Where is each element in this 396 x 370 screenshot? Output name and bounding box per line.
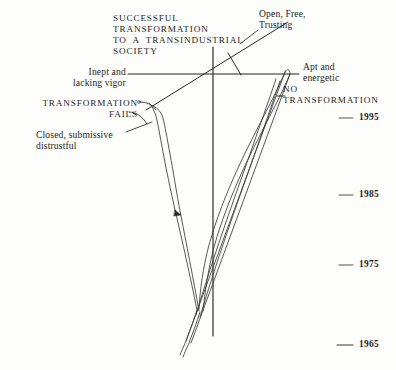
year-label-1975: 1975 (359, 259, 379, 270)
label-transformation-fails: TRANSFORMATION FAILS (20, 98, 138, 120)
label-inept-and-lacking-vigor: Inept and lacking vigor (73, 66, 126, 89)
crossing-line-inner (191, 74, 290, 343)
label-no-transformation: NO TRANSFORMATION (283, 84, 379, 106)
successful-transformation-band-cap (285, 70, 290, 74)
year-label-1985: 1985 (359, 189, 379, 200)
transformation-fails-band-outer (149, 103, 197, 310)
year-label-1995: 1995 (359, 112, 379, 123)
closed-submissive-leader (126, 122, 152, 132)
crossing-line-outer (186, 72, 285, 341)
lower-tail-left-inner (183, 312, 200, 357)
year-label-1965: 1965 (359, 339, 379, 350)
label-successful-transformation: SUCCESSFUL TRANSFORMATION TO A TRANSINDU… (113, 13, 244, 56)
label-apt-and-energetic: Apt and energetic (303, 61, 339, 84)
no-transformation-band-inner (200, 81, 280, 317)
label-open-free-trusting: Open, Free, Trusting (259, 8, 306, 31)
diagram-canvas: SUCCESSFUL TRANSFORMATION TO A TRANSINDU… (0, 0, 396, 370)
label-closed-submissive-distrustful: Closed, submissive distrustful (36, 129, 113, 152)
